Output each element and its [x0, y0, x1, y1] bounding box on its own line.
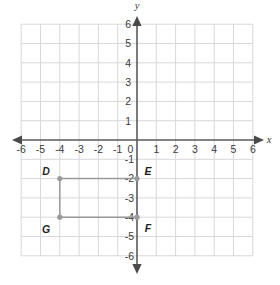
coordinate-plane-figure: -6 -5 -4 -3 -2 -1 0 1 2 3 4 5 6 6 5 4 3 …	[0, 0, 280, 285]
y-tick--5: -5	[125, 230, 134, 242]
y-tick-2: 2	[125, 95, 131, 107]
x-tick--1: -1	[113, 143, 122, 155]
x-tick-1: 1	[153, 143, 159, 155]
y-tick--6: -6	[125, 250, 134, 262]
y-tick--3: -3	[125, 192, 134, 204]
x-tick--2: -2	[94, 143, 103, 155]
x-tick--5: -5	[36, 143, 45, 155]
x-tick-3: 3	[192, 143, 198, 155]
y-tick-1: 1	[125, 115, 131, 127]
point-marker-f[interactable]	[134, 215, 139, 220]
x-tick--6: -6	[17, 143, 26, 155]
y-axis-label: y	[134, 0, 140, 11]
y-tick-5: 5	[125, 37, 131, 49]
y-tick--1: -1	[125, 153, 134, 165]
y-tick-3: 3	[125, 76, 131, 88]
point-label-d: D	[42, 165, 50, 177]
x-axis-label: x	[266, 134, 272, 145]
x-tick--4: -4	[55, 143, 64, 155]
point-marker-d[interactable]	[57, 176, 62, 181]
point-marker-e[interactable]	[134, 176, 139, 181]
point-label-g: G	[42, 223, 50, 235]
point-label-e: E	[144, 165, 152, 177]
point-label-f: F	[145, 222, 152, 234]
point-marker-g[interactable]	[57, 215, 62, 220]
x-tick-4: 4	[211, 143, 217, 155]
x-tick-6: 6	[250, 143, 256, 155]
x-tick--3: -3	[74, 143, 83, 155]
x-tick-5: 5	[231, 143, 237, 155]
y-tick-4: 4	[125, 57, 131, 69]
y-tick-6: 6	[125, 18, 131, 30]
x-tick-2: 2	[173, 143, 179, 155]
